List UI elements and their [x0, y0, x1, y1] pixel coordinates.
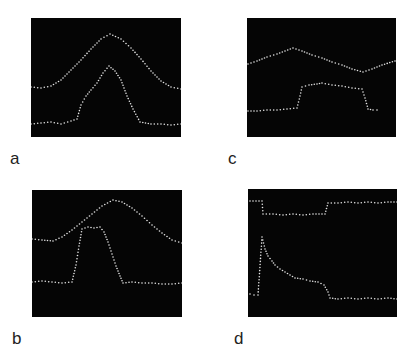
data-point — [110, 67, 112, 69]
data-point — [78, 245, 80, 247]
data-point — [273, 109, 275, 111]
data-point — [161, 283, 163, 285]
data-point — [115, 200, 117, 202]
data-point — [335, 62, 337, 64]
data-point — [55, 239, 57, 241]
data-point — [325, 211, 327, 213]
data-point — [80, 59, 82, 61]
data-point — [262, 213, 264, 215]
data-point — [393, 201, 395, 203]
data-point — [270, 109, 272, 111]
data-point — [393, 298, 395, 300]
data-point — [297, 278, 299, 280]
data-point — [306, 279, 308, 281]
data-point — [32, 238, 33, 240]
data-point — [34, 123, 36, 125]
data-point — [115, 36, 117, 38]
data-point — [270, 55, 272, 57]
data-point — [276, 53, 278, 55]
data-point — [259, 273, 261, 275]
chart-panel-a — [31, 18, 181, 137]
plot-area-c — [247, 18, 396, 137]
data-point — [292, 213, 294, 215]
data-point — [146, 65, 148, 67]
data-point — [82, 101, 84, 103]
data-point — [47, 86, 49, 88]
data-point — [110, 250, 112, 252]
data-point — [90, 48, 92, 50]
data-point — [94, 211, 96, 213]
data-point — [119, 275, 121, 277]
data-point — [38, 281, 40, 283]
data-point — [124, 203, 126, 205]
data-point — [262, 207, 264, 209]
data-point — [84, 98, 86, 100]
data-point — [324, 213, 326, 215]
data-point — [374, 202, 376, 204]
data-point — [77, 255, 79, 257]
data-point — [168, 85, 170, 87]
data-point — [177, 124, 179, 126]
data-point — [354, 69, 356, 71]
data-point — [289, 274, 291, 276]
data-point — [74, 227, 76, 229]
data-point — [89, 215, 91, 217]
data-point — [262, 239, 264, 241]
data-point — [351, 298, 353, 300]
data-point — [293, 108, 295, 110]
data-point — [76, 258, 78, 260]
data-point — [106, 68, 108, 70]
data-point — [128, 45, 130, 47]
data-point — [114, 262, 116, 264]
data-point — [149, 222, 151, 224]
data-point — [68, 282, 70, 284]
data-point — [371, 298, 373, 300]
data-point — [368, 69, 370, 71]
data-point — [341, 85, 343, 87]
data-point — [351, 202, 353, 204]
data-point — [261, 58, 263, 60]
data-point — [77, 115, 79, 117]
data-point — [266, 213, 268, 215]
data-point — [271, 260, 273, 262]
data-point — [344, 298, 346, 300]
data-point — [61, 236, 63, 238]
data-point — [122, 282, 124, 284]
data-point — [104, 204, 106, 206]
data-point — [117, 270, 119, 272]
data-point — [80, 234, 82, 236]
data-point — [160, 123, 162, 125]
data-point — [344, 65, 346, 67]
data-point — [279, 214, 281, 216]
data-point — [257, 294, 259, 296]
data-point — [258, 285, 260, 287]
data-point — [362, 71, 364, 73]
data-point — [259, 267, 261, 269]
data-point — [318, 56, 320, 58]
data-point — [112, 35, 114, 37]
data-point — [361, 202, 363, 204]
data-point — [154, 123, 156, 125]
data-point — [321, 57, 323, 59]
data-point — [41, 280, 43, 282]
data-point — [292, 47, 294, 49]
data-point — [341, 298, 343, 300]
data-point — [119, 77, 121, 79]
data-point — [75, 267, 77, 269]
data-point — [175, 283, 177, 285]
data-point — [62, 77, 64, 79]
data-point — [311, 84, 313, 86]
data-point — [44, 240, 46, 242]
data-point — [331, 61, 333, 63]
data-point — [325, 83, 327, 85]
data-point — [90, 227, 92, 229]
data-point — [164, 234, 166, 236]
data-point — [358, 88, 360, 90]
data-point — [276, 214, 278, 216]
data-point — [253, 294, 255, 296]
data-point — [361, 88, 363, 90]
data-point — [55, 282, 57, 284]
data-point — [260, 248, 262, 250]
data-point — [357, 298, 359, 300]
data-point — [256, 60, 258, 62]
